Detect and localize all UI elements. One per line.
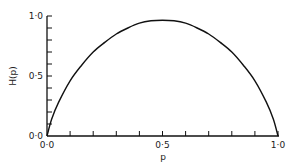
y-tick-label: 1·0 (29, 11, 44, 21)
x-tick-label: 0·5 (155, 140, 169, 150)
x-axis-label: p (160, 152, 166, 162)
y-axis-label: H(p) (8, 66, 18, 86)
y-tick-label: 0·5 (29, 71, 43, 81)
entropy-chart: 0·00·51·00·00·51·0 p H(p) (0, 0, 301, 167)
axes (47, 16, 279, 136)
y-tick-label: 0·0 (29, 131, 44, 141)
x-tick-label: 0·0 (40, 140, 55, 150)
x-tick-label: 1·0 (271, 140, 286, 150)
series-line-H(p) (47, 20, 278, 136)
